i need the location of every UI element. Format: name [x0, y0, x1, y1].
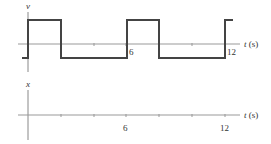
top-x-label: t (s)	[244, 39, 258, 49]
bottom-y-label: x	[25, 79, 30, 89]
bottom-x-label: t (s)	[244, 110, 258, 120]
top-tick-label-6: 6	[129, 47, 134, 57]
top-plot: v t (s) 6 12	[18, 1, 258, 72]
bottom-plot: x t (s) 6 12	[18, 79, 258, 140]
figure: v t (s) 6 12 x t (s) 6 12	[0, 0, 271, 144]
bottom-tick-label-6: 6	[123, 123, 128, 133]
top-tick-label-12: 12	[227, 47, 236, 57]
velocity-square-wave	[22, 20, 233, 58]
bottom-tick-label-12: 12	[220, 123, 229, 133]
top-y-label: v	[26, 1, 30, 11]
